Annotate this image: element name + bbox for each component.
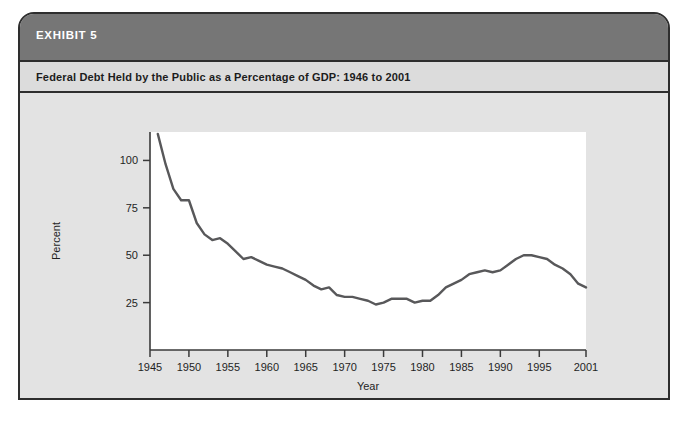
exhibit-header-bar: EXHIBIT 5	[20, 14, 668, 62]
x-tick-label: 1945	[138, 361, 162, 373]
x-tick-label: 1950	[177, 361, 201, 373]
x-axis-title: Year	[357, 380, 380, 392]
y-tick-label: 25	[126, 297, 138, 309]
chart-plot-region: 255075100 194519501955196019651970197519…	[20, 93, 668, 398]
x-tick-label: 1985	[449, 361, 473, 373]
x-tick-label: 1965	[293, 361, 317, 373]
x-tick-label: 2001	[574, 361, 598, 373]
chart-title: Federal Debt Held by the Public as a Per…	[36, 71, 411, 83]
x-tick-label: 1955	[216, 361, 240, 373]
exhibit-label: EXHIBIT 5	[36, 29, 97, 41]
plot-background	[150, 132, 586, 350]
y-tick-label: 50	[126, 249, 138, 261]
y-tick-label: 100	[120, 154, 138, 166]
x-tick-label: 1975	[371, 361, 395, 373]
y-tick-label: 75	[126, 202, 138, 214]
line-chart: 255075100 194519501955196019651970197519…	[20, 93, 668, 398]
exhibit-card: EXHIBIT 5 Federal Debt Held by the Publi…	[18, 12, 670, 400]
x-tick-label: 1990	[488, 361, 512, 373]
x-tick-label: 1980	[410, 361, 434, 373]
y-axis-ticks: 255075100	[120, 154, 150, 308]
x-tick-label: 1995	[527, 361, 551, 373]
x-tick-label: 1960	[255, 361, 279, 373]
chart-title-bar: Federal Debt Held by the Public as a Per…	[20, 62, 668, 93]
x-tick-label: 1970	[332, 361, 356, 373]
x-axis-ticks: 1945195019551960196519701975198019851990…	[138, 350, 598, 373]
y-axis-title: Percent	[50, 222, 62, 260]
